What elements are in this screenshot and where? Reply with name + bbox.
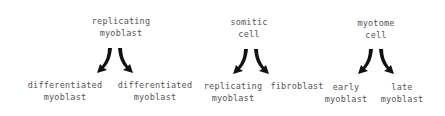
child-line1: replicating — [204, 80, 263, 92]
child-line2: myoblast — [204, 92, 263, 104]
arrow-left-icon — [97, 48, 112, 73]
parent-label-somitic-cell: somitic cell — [230, 16, 267, 40]
child-line2: myoblast — [118, 91, 192, 103]
parent-label-myotome-cell: myotome cell — [357, 17, 394, 41]
arrow-right-icon — [379, 49, 394, 74]
child-line2: myoblast — [325, 93, 368, 105]
child-line1: differentiated — [118, 79, 192, 91]
parent-line1: somitic — [230, 16, 267, 28]
child-label-replicating-myoblast: replicating myoblast — [204, 80, 263, 104]
arrow-left-icon — [358, 49, 373, 74]
arrow-left-icon — [233, 49, 248, 74]
child-label-early-myoblast: early myoblast — [325, 81, 368, 105]
child-label-differentiated-myoblast-1: differentiated myoblast — [28, 79, 102, 103]
child-line2: myoblast — [381, 93, 424, 105]
parent-line1: replicating — [92, 15, 151, 27]
child-line1: fibroblast — [270, 80, 323, 92]
child-line1: early — [325, 81, 368, 93]
child-label-differentiated-myoblast-2: differentiated myoblast — [118, 79, 192, 103]
child-line2: myoblast — [28, 91, 102, 103]
split-arrows-icon — [357, 48, 397, 76]
parent-line2: cell — [357, 29, 394, 41]
child-line1: differentiated — [28, 79, 102, 91]
arrow-right-icon — [118, 48, 133, 73]
child-label-late-myoblast: late myoblast — [381, 81, 424, 105]
child-label-fibroblast: fibroblast — [270, 80, 323, 92]
parent-line2: myoblast — [92, 27, 151, 39]
split-arrows-icon — [96, 47, 136, 75]
parent-label-replicating-myoblast: replicating myoblast — [92, 15, 151, 39]
parent-line1: myotome — [357, 17, 394, 29]
child-line1: late — [381, 81, 424, 93]
arrow-right-icon — [254, 49, 269, 74]
split-arrows-icon — [232, 48, 272, 76]
parent-line2: cell — [230, 28, 267, 40]
